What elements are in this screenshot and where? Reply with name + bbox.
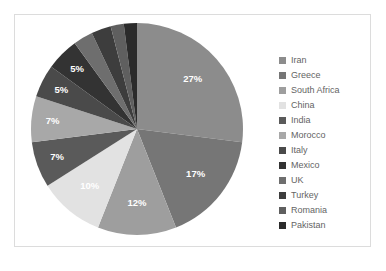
legend-item-label: Greece [291, 70, 321, 81]
pie-slice-value-label: 7% [46, 115, 60, 126]
legend-color-swatch [279, 162, 286, 169]
legend-item-label: Turkey [291, 190, 318, 201]
legend-item[interactable]: Turkey [279, 188, 371, 203]
legend-item[interactable]: Pakistan [279, 218, 371, 233]
legend-color-swatch [279, 72, 286, 79]
legend-item-label: UK [291, 175, 304, 186]
legend-item-label: South Africa [291, 85, 340, 96]
legend-item-label: Pakistan [291, 220, 326, 231]
legend-item[interactable]: China [279, 98, 371, 113]
legend-color-swatch [279, 207, 286, 214]
legend-item-label: China [291, 100, 315, 111]
legend-color-swatch [279, 117, 286, 124]
legend-item-label: India [291, 115, 311, 126]
legend-item[interactable]: Iran [279, 53, 371, 68]
pie-slice-value-label: 3% [92, 21, 106, 28]
pie-chart-plot-area: 27%17%12%10%7%7%5%5%3%3%2%2% [15, 15, 270, 246]
legend-item[interactable]: Romania [279, 203, 371, 218]
chart-frame: 27%17%12%10%7%7%5%5%3%3%2%2% IranGreeceS… [14, 14, 371, 247]
pie-slice-value-label: 2% [109, 21, 123, 23]
pie-slice-value-label: 7% [50, 151, 64, 162]
pie-slice-value-label: 17% [186, 168, 206, 179]
legend-item-label: Morocco [291, 130, 326, 141]
pie-slice-value-label: 10% [80, 180, 100, 191]
legend-item-label: Italy [291, 145, 308, 156]
legend-color-swatch [279, 192, 286, 199]
legend-item[interactable]: South Africa [279, 83, 371, 98]
legend-color-swatch [279, 132, 286, 139]
pie-slice-value-label: 27% [183, 73, 203, 84]
chart-legend: IranGreeceSouth AfricaChinaIndiaMoroccoI… [279, 53, 371, 233]
legend-color-swatch [279, 222, 286, 229]
pie-slice-value-label: 5% [55, 84, 69, 95]
legend-item-label: Mexico [291, 160, 320, 171]
legend-item[interactable]: Italy [279, 143, 371, 158]
legend-item[interactable]: Greece [279, 68, 371, 83]
legend-color-swatch [279, 57, 286, 64]
pie-slice-value-label: 12% [127, 197, 147, 208]
legend-color-swatch [279, 177, 286, 184]
legend-color-swatch [279, 87, 286, 94]
legend-color-swatch [279, 102, 286, 109]
legend-item[interactable]: India [279, 113, 371, 128]
legend-item[interactable]: Mexico [279, 158, 371, 173]
legend-item[interactable]: Morocco [279, 128, 371, 143]
legend-item-label: Iran [291, 55, 307, 66]
pie-slice-value-label: 5% [70, 63, 84, 74]
legend-item[interactable]: UK [279, 173, 371, 188]
pie-chart[interactable]: 27%17%12%10%7%7%5%5%3%3%2%2% [29, 21, 245, 237]
legend-color-swatch [279, 147, 286, 154]
legend-item-label: Romania [291, 205, 327, 216]
pie-slice-value-label: 3% [73, 26, 87, 37]
